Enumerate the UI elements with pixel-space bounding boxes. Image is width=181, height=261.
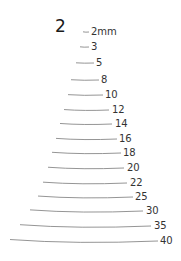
gauge-label: 3 [91, 42, 97, 52]
gauge-label: 2mm [91, 27, 117, 37]
gauge-line [64, 110, 109, 111]
gauge-label: 20 [127, 163, 140, 173]
gauge-label: 22 [130, 178, 143, 188]
gauge-diagram: 2 2mm3581012141618202225303540 [0, 0, 181, 261]
gauge-line [60, 123, 112, 124]
gauge-label: 35 [154, 221, 167, 231]
gauge-line [20, 225, 151, 228]
gauge-line [10, 240, 158, 243]
gauge-line [30, 210, 143, 212]
gauge-label: 16 [119, 134, 132, 144]
gauge-label: 10 [105, 90, 118, 100]
gauge-line [68, 95, 103, 96]
gauge-label: 5 [96, 58, 102, 68]
gauge-line [71, 80, 99, 81]
gauge-label: 40 [160, 236, 173, 246]
gauge-line [38, 196, 133, 198]
gauge-line [56, 138, 117, 139]
gauge-line [43, 182, 127, 184]
gauge-line [48, 167, 124, 168]
gauge-label: 30 [146, 206, 159, 216]
gauge-label: 14 [115, 119, 128, 129]
gauge-line [52, 152, 121, 153]
gauge-label: 12 [112, 105, 125, 115]
gauge-label: 8 [101, 75, 107, 85]
gauge-label: 18 [123, 148, 136, 158]
gauge-label: 25 [135, 192, 148, 202]
